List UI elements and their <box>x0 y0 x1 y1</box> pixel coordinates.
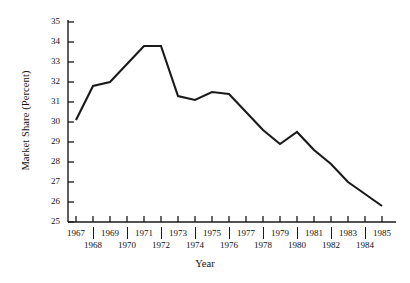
x-label-separator <box>331 227 332 239</box>
y-tick-label: 29 <box>38 136 60 146</box>
x-tick-label-even-year: 1978 <box>248 240 278 250</box>
axes <box>68 20 396 222</box>
y-axis-title-text: Market Share (Percent) <box>20 70 31 170</box>
x-tick-label-odd-year: 1973 <box>163 228 193 238</box>
x-tick-label-even-year: 1980 <box>282 240 312 250</box>
x-tick-label-even-year: 1970 <box>112 240 142 250</box>
x-tick-label-odd-year: 1981 <box>299 228 329 238</box>
x-tick-label-odd-year: 1967 <box>61 228 91 238</box>
x-label-separator <box>229 227 230 239</box>
x-tick-label-even-year: 1976 <box>214 240 244 250</box>
x-tick-label-odd-year: 1977 <box>231 228 261 238</box>
x-label-separator <box>365 227 366 239</box>
x-label-separator <box>127 227 128 239</box>
x-label-separator <box>161 227 162 239</box>
x-tick-label-odd-year: 1969 <box>95 228 125 238</box>
x-label-separator <box>93 227 94 239</box>
y-tick-label: 25 <box>38 216 60 226</box>
y-tick-label: 32 <box>38 76 60 86</box>
y-tick-label: 34 <box>38 36 60 46</box>
x-tick-label-even-year: 1968 <box>78 240 108 250</box>
y-tick-label: 26 <box>38 196 60 206</box>
x-tick-label-odd-year: 1971 <box>129 228 159 238</box>
y-axis-ticks <box>68 22 74 222</box>
x-axis-ticks <box>76 216 382 222</box>
x-tick-label-odd-year: 1983 <box>333 228 363 238</box>
y-tick-label: 27 <box>38 176 60 186</box>
x-label-separator <box>297 227 298 239</box>
y-axis-title: Market Share (Percent) <box>14 0 36 240</box>
x-tick-label-even-year: 1982 <box>316 240 346 250</box>
y-tick-label: 35 <box>38 16 60 26</box>
x-tick-label-even-year: 1974 <box>180 240 210 250</box>
x-tick-label-odd-year: 1985 <box>367 228 397 238</box>
chart-figure: Market Share (Percent) Year 252627282930… <box>0 0 410 283</box>
market-share-line <box>76 46 382 206</box>
y-tick-label: 31 <box>38 96 60 106</box>
y-tick-label: 28 <box>38 156 60 166</box>
x-tick-label-odd-year: 1975 <box>197 228 227 238</box>
y-tick-label: 33 <box>38 56 60 66</box>
x-axis-title: Year <box>0 258 410 269</box>
y-tick-label: 30 <box>38 116 60 126</box>
x-tick-label-even-year: 1972 <box>146 240 176 250</box>
x-tick-label-odd-year: 1979 <box>265 228 295 238</box>
x-label-separator <box>263 227 264 239</box>
x-tick-label-even-year: 1984 <box>350 240 380 250</box>
x-label-separator <box>195 227 196 239</box>
